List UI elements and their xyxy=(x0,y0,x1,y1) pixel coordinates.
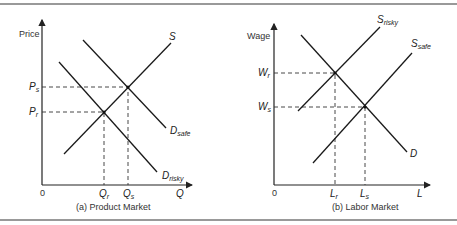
demand-safe-label: Dsafe xyxy=(170,125,191,137)
supply-risky-curve xyxy=(298,27,380,111)
demand-label: D xyxy=(410,148,417,159)
risky-equilibrium-guide xyxy=(274,73,335,185)
supply-safe-curve xyxy=(313,53,412,163)
wage-axis-label: Wage xyxy=(247,31,270,41)
caption-product-market: (a) Product Market xyxy=(76,202,151,212)
demand-safe-curve xyxy=(83,40,166,128)
qty-risky-label: Qr xyxy=(99,188,110,200)
supply-safe-label: Ssafe xyxy=(411,38,431,50)
risky-equilibrium-point xyxy=(102,110,105,113)
l-axis-label: L xyxy=(417,188,423,199)
supply-risky-label: Srisky xyxy=(377,14,399,27)
risky-equilibrium-point xyxy=(333,71,336,74)
origin-label: 0 xyxy=(40,188,45,198)
caption-labor-market: (b) Labor Market xyxy=(332,202,399,212)
price-safe-label: Ps xyxy=(29,81,40,93)
figure: Price 0 Q S Dsafe Drisky Ps Pr Qr Qs (a)… xyxy=(0,0,457,225)
safe-equilibrium-point xyxy=(126,85,129,88)
price-axis-label: Price xyxy=(19,29,40,39)
qty-safe-label: Qs xyxy=(123,188,135,200)
panel-labor-market: Wage 0 L Srisky Ssafe D Wr Ws Lr Ls (b) … xyxy=(247,14,431,212)
supply-curve xyxy=(64,43,171,154)
price-risky-label: Pr xyxy=(29,106,39,118)
demand-curve xyxy=(301,35,407,152)
safe-equilibrium-guide xyxy=(274,107,365,185)
panel-product-market: Price 0 Q S Dsafe Drisky Ps Pr Qr Qs (a)… xyxy=(19,20,192,212)
wage-safe-label: Ws xyxy=(258,101,271,113)
origin-label: 0 xyxy=(272,188,277,198)
demand-risky-curve xyxy=(59,62,157,172)
labor-safe-label: Ls xyxy=(360,188,370,200)
supply-label: S xyxy=(169,31,176,42)
demand-risky-label: Drisky xyxy=(162,170,184,183)
q-axis-label: Q xyxy=(176,188,184,199)
safe-equilibrium-point xyxy=(363,105,366,108)
wage-risky-label: Wr xyxy=(258,67,270,79)
labor-risky-label: Lr xyxy=(330,188,339,200)
